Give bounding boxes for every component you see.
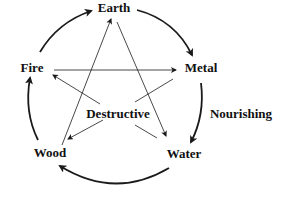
node-water: Water bbox=[167, 147, 202, 161]
arrow-fire-to-earth bbox=[40, 11, 91, 52]
node-metal: Metal bbox=[185, 61, 217, 75]
arrow-water-to-fire-a bbox=[135, 125, 157, 138]
node-fire: Fire bbox=[21, 61, 44, 75]
arrow-wood-to-fire bbox=[28, 78, 38, 140]
arrow-earth-to-metal bbox=[137, 10, 192, 55]
arrow-metal-to-wood-a bbox=[135, 79, 173, 102]
five-elements-diagram: Earth Fire Metal Wood Water Destructive … bbox=[0, 0, 286, 203]
arrow-metal-to-water bbox=[191, 83, 202, 142]
destructive-cycle-arrows bbox=[53, 19, 176, 145]
diagram-graphics bbox=[0, 0, 286, 203]
node-earth: Earth bbox=[98, 1, 131, 15]
node-wood: Wood bbox=[34, 146, 67, 160]
arrow-water-to-wood bbox=[60, 166, 169, 184]
destructive-cycle-label: Destructive bbox=[86, 107, 150, 121]
nourishing-cycle-label: Nourishing bbox=[210, 107, 272, 121]
arrow-wood-to-earth bbox=[62, 19, 111, 145]
arrow-metal-to-wood-b bbox=[68, 120, 103, 139]
arrow-water-to-fire-b bbox=[53, 75, 100, 104]
